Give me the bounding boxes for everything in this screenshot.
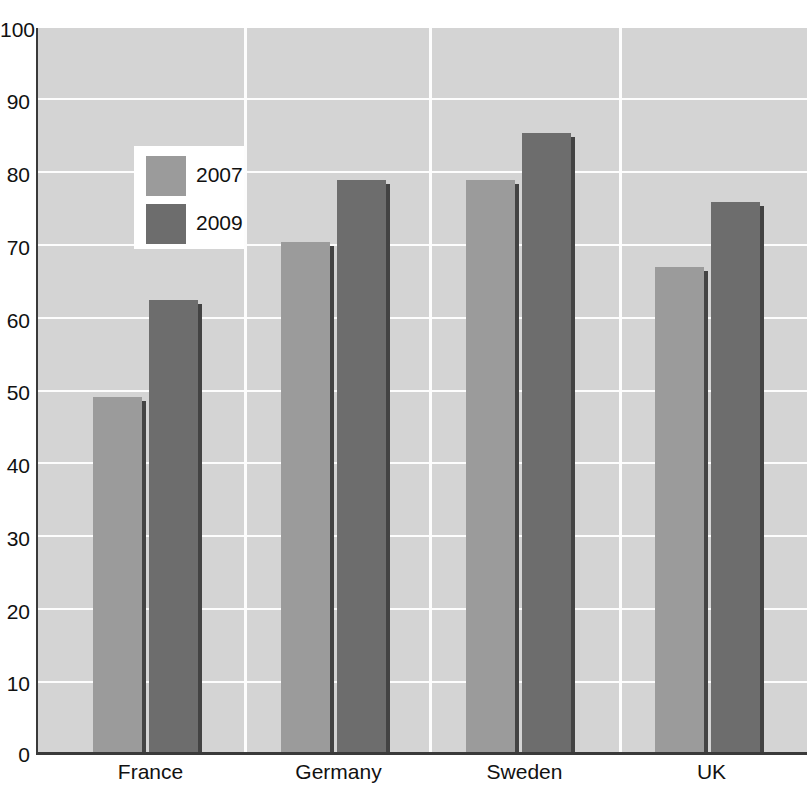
y-tick-label-80: 80 bbox=[0, 164, 30, 185]
y-tick-label-20: 20 bbox=[0, 601, 30, 622]
bar-body bbox=[466, 180, 515, 752]
y-tick-label-50: 50 bbox=[0, 382, 30, 403]
legend-swatch-2009 bbox=[146, 204, 186, 244]
bar-uk-2007 bbox=[655, 267, 708, 752]
y-tick-label-90: 90 bbox=[0, 91, 30, 112]
x-tick-label-germany: Germany bbox=[246, 760, 431, 784]
bar-body bbox=[522, 133, 571, 752]
bar-edge bbox=[704, 271, 708, 752]
y-tick-label-10: 10 bbox=[0, 673, 30, 694]
legend-swatch-2007 bbox=[146, 156, 186, 196]
y-tick-label-100: 100 bbox=[0, 19, 30, 40]
bar-body bbox=[93, 397, 142, 752]
y-tick-label-60: 60 bbox=[0, 310, 30, 331]
plot-area: 2007 2009 bbox=[38, 28, 807, 752]
bar-germany-2009 bbox=[337, 180, 390, 752]
chart-title-cropped bbox=[0, 0, 807, 5]
x-axis-line bbox=[38, 752, 807, 755]
bar-chart: 2007 2009 100 90 80 70 60 50 40 30 20 10… bbox=[0, 0, 807, 797]
y-tick-label-30: 30 bbox=[0, 528, 30, 549]
bar-edge bbox=[330, 246, 334, 752]
bar-uk-2009 bbox=[711, 202, 764, 752]
bar-edge bbox=[760, 206, 764, 752]
x-tick-label-sweden: Sweden bbox=[432, 760, 617, 784]
bar-edge bbox=[198, 304, 202, 753]
x-tick-label-uk: UK bbox=[619, 760, 804, 784]
bar-edge bbox=[515, 184, 519, 752]
bar-sweden-2009 bbox=[522, 133, 575, 752]
bar-body bbox=[655, 267, 704, 752]
x-tick-label-france: France bbox=[58, 760, 243, 784]
bar-body bbox=[149, 300, 198, 753]
bar-body bbox=[711, 202, 760, 752]
bar-france-2009 bbox=[149, 300, 202, 753]
legend-label-2007: 2007 bbox=[196, 163, 243, 187]
bar-france-2007 bbox=[93, 397, 146, 752]
category-separator-1 bbox=[244, 28, 247, 752]
bar-body bbox=[281, 242, 330, 752]
bar-body bbox=[337, 180, 386, 752]
category-separator-3 bbox=[619, 28, 622, 752]
bar-sweden-2007 bbox=[466, 180, 519, 752]
bar-edge bbox=[386, 184, 390, 752]
y-tick-label-70: 70 bbox=[0, 237, 30, 258]
y-axis-line bbox=[36, 28, 38, 755]
legend-entry-2009: 2009 bbox=[134, 202, 244, 246]
y-tick-label-0: 0 bbox=[0, 744, 30, 765]
gridline-90 bbox=[38, 98, 807, 100]
bar-edge bbox=[571, 137, 575, 752]
legend-entry-2007: 2007 bbox=[134, 154, 244, 198]
category-separator-2 bbox=[429, 28, 432, 752]
bar-edge bbox=[142, 401, 146, 752]
y-tick-label-40: 40 bbox=[0, 455, 30, 476]
bar-germany-2007 bbox=[281, 242, 334, 752]
legend-label-2009: 2009 bbox=[196, 211, 243, 235]
legend: 2007 2009 bbox=[134, 146, 244, 249]
